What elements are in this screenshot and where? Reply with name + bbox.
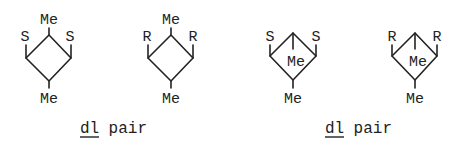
left-label: S	[265, 29, 274, 46]
bottom-label: Me	[40, 91, 58, 108]
bottom-label: Me	[284, 91, 302, 108]
caption-prefix: dl	[325, 120, 344, 138]
ring-bonds	[148, 35, 193, 81]
structure-3-cyclobutane: S S Me Me	[265, 29, 320, 108]
caption-right: dl pair	[325, 120, 392, 138]
left-label: R	[142, 29, 151, 46]
bottom-label: Me	[406, 91, 424, 108]
ring-bonds	[26, 35, 71, 81]
caption-suffix: pair	[344, 120, 392, 138]
top-label: Me	[40, 12, 58, 29]
diagram-canvas: Me S S Me Me R R Me S S Me Me R R Me	[0, 0, 458, 149]
center-label: Me	[409, 54, 427, 71]
structure-2-cyclobutane: Me R R Me	[142, 12, 197, 108]
structure-4-cyclobutane: R R Me Me	[387, 29, 441, 108]
right-label: R	[432, 29, 441, 46]
right-label: S	[311, 29, 320, 46]
caption-left: dl pair	[80, 120, 147, 138]
right-label: S	[65, 29, 74, 46]
bottom-label: Me	[162, 91, 180, 108]
left-label: S	[20, 29, 29, 46]
structure-1-cyclobutane: Me S S Me	[20, 12, 74, 108]
right-label: R	[188, 29, 197, 46]
caption-suffix: pair	[99, 120, 147, 138]
left-label: R	[387, 29, 396, 46]
center-label: Me	[287, 54, 305, 71]
top-label: Me	[162, 12, 180, 29]
caption-prefix: dl	[80, 120, 99, 138]
